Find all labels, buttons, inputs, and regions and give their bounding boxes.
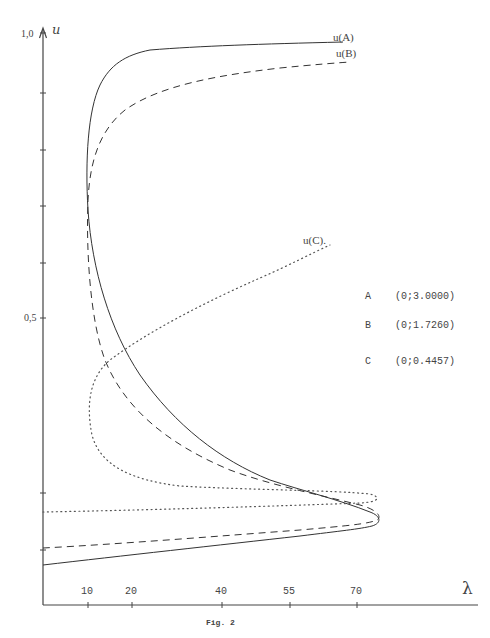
legend-value: (0;1.7260): [395, 320, 455, 331]
x-tick-label-55: 55: [283, 586, 295, 597]
legend-key: A: [365, 291, 395, 302]
x-tick-label-20: 20: [125, 586, 137, 597]
x-tick-label-10: 10: [81, 586, 93, 597]
y-axis-label: u: [52, 22, 60, 37]
y-tick-label-top: 1,0: [21, 28, 34, 39]
chart-canvas: [0, 0, 490, 638]
x-tick-label-40: 40: [215, 586, 227, 597]
legend-entry-c: C(0;0.4457): [365, 356, 455, 367]
curve-label-b: u(B): [336, 47, 356, 59]
y-tick-label-mid: 0,5: [24, 312, 37, 323]
legend-entry-b: B(0;1.7260): [365, 320, 455, 331]
legend-value: (0;3.0000): [395, 291, 455, 302]
legend-entry-a: A(0;3.0000): [365, 291, 455, 302]
x-axis-label: λ: [462, 578, 473, 598]
figure-caption: Fig. 2: [206, 618, 235, 627]
curve-u-a: [43, 42, 379, 565]
curve-u-b: [43, 62, 379, 548]
curve-label-c: u(C).: [303, 234, 326, 246]
legend-value: (0;0.4457): [395, 356, 455, 367]
curve-label-a: u(A): [333, 31, 354, 43]
legend-key: B: [365, 320, 395, 331]
curve-u-c: [43, 245, 377, 512]
legend-key: C: [365, 356, 395, 367]
x-tick-label-70: 70: [350, 586, 362, 597]
